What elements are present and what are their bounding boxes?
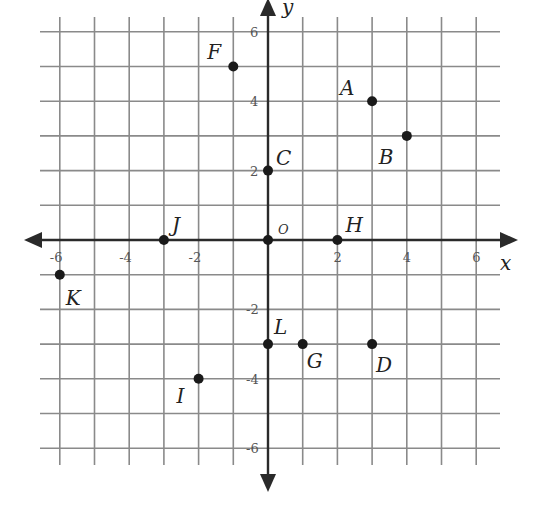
point-label: A [338,76,354,100]
y-tick-label: -4 [246,372,259,387]
x-tick-label: 2 [333,250,341,265]
point-marker-icon [367,96,377,106]
point-label: I [176,384,186,408]
x-axis-label: x [500,251,511,275]
y-axis-label: y [281,0,294,19]
point-label: F [206,40,222,64]
x-tick-label: -4 [119,250,132,265]
axes: x y [24,0,518,492]
point-label: L [273,315,287,339]
point-label: K [65,286,82,310]
point-marker-icon [228,62,238,72]
point-label: O [278,222,289,237]
point-marker-icon [332,235,342,245]
y-tick-label: 4 [250,94,258,109]
x-tick-label: 4 [403,250,411,265]
point-marker-icon [402,131,412,141]
point-marker-icon [263,235,273,245]
y-tick-label: 6 [250,25,258,40]
point-marker-icon [263,339,273,349]
point-label: B [378,145,394,169]
point-label: C [276,146,291,170]
point-k: K [55,270,82,310]
point-marker-icon [263,166,273,176]
x-tick-label: -2 [189,250,202,265]
y-tick-label: -2 [246,302,259,317]
coordinate-plane: x y -6-4-2246642-2-4-6 ABCDFGHIJKLO [0,0,546,516]
point-label: D [375,353,392,377]
point-label: G [307,349,323,373]
point-marker-icon [298,339,308,349]
point-label: J [168,213,181,237]
y-axis-up-arrow-icon [260,0,276,16]
point-marker-icon [194,374,204,384]
point-marker-icon [55,270,65,280]
point-marker-icon [367,339,377,349]
x-axis-right-arrow-icon [500,232,518,248]
x-tick-label: -6 [50,250,63,265]
x-tick-label: 6 [472,250,480,265]
y-axis-down-arrow-icon [260,474,276,492]
point-marker-icon [159,235,169,245]
point-label: H [344,213,363,237]
y-tick-label: 2 [250,164,258,179]
y-tick-label: -6 [246,441,259,456]
x-axis-left-arrow-icon [24,232,42,248]
